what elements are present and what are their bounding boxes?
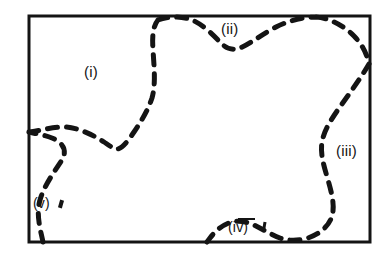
region-label-iv-text: (iv) [228,219,248,235]
region-label-iv: (iv) [228,220,248,234]
overbar-mark [238,218,255,220]
diagram-canvas [0,0,386,255]
region-label-ii: (ii) [221,21,238,36]
region-label-iii: (iii) [336,143,357,158]
region-label-v: (v) [33,196,50,210]
region-label-i: (i) [84,64,98,79]
figure-root: (i) (ii) (iii) (iv) (v) [0,0,386,255]
